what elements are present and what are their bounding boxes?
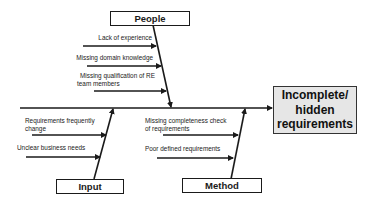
cause-text-line-1: Missing qualification of RE (77, 72, 155, 80)
cause-text-line-2: team members (77, 80, 155, 88)
cause-text-line-1: Missing completeness check (145, 117, 226, 125)
cause-requirements-frequently-change: Requirements frequently change (25, 117, 95, 133)
effect-label-line-3: requirements (277, 117, 353, 132)
cause-missing-domain-knowledge: Missing domain knowledge (76, 54, 153, 62)
effect-box: Incomplete/ hidden requirements (273, 86, 357, 134)
cause-missing-qualification: Missing qualification of RE team members (77, 72, 155, 88)
fishbone-diagram: People Input Method Incomplete/ hidden r… (0, 0, 374, 205)
input-bone (94, 109, 113, 179)
category-label-method: Method (205, 180, 239, 191)
cause-text: Poor defined requirements (145, 145, 220, 153)
cause-lack-of-experience: Lack of experience (98, 34, 152, 42)
effect-label-line-2: hidden (277, 103, 353, 118)
category-label-people: People (134, 13, 165, 24)
category-box-method: Method (182, 178, 262, 193)
category-box-people: People (110, 11, 190, 26)
cause-poor-defined-requirements: Poor defined requirements (145, 145, 220, 153)
category-box-input: Input (56, 179, 124, 194)
cause-text: Lack of experience (98, 34, 152, 42)
cause-text-line-2: change (25, 125, 95, 133)
cause-unclear-business-needs: Unclear business needs (17, 144, 85, 152)
cause-text: Unclear business needs (17, 144, 85, 152)
category-label-input: Input (78, 181, 101, 192)
effect-label-line-1: Incomplete/ (277, 88, 353, 103)
cause-text-line-2: of requirements (145, 125, 226, 133)
cause-text-line-1: Requirements frequently (25, 117, 95, 125)
cause-missing-completeness-check: Missing completeness check of requiremen… (145, 117, 226, 133)
cause-text: Missing domain knowledge (76, 54, 153, 62)
method-bone (231, 109, 245, 179)
